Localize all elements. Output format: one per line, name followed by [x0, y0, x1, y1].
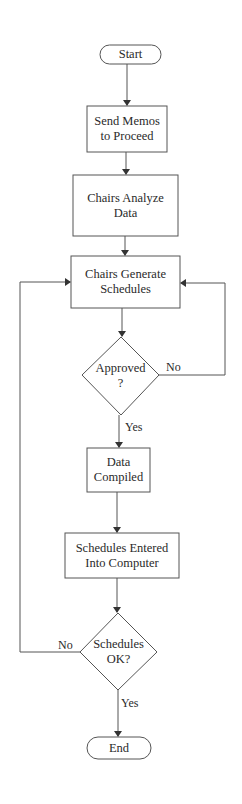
- node-schedules-ok-line-1: Schedules: [93, 637, 144, 652]
- node-start: Start: [100, 45, 161, 64]
- edge-label-ok-no: No: [58, 638, 73, 652]
- node-start-label: Start: [119, 47, 143, 62]
- node-schedules-entered-line-2: Into Computer: [85, 556, 158, 571]
- node-chairs-analyze-line-2: Data: [114, 206, 138, 221]
- edge-schedules-ok-no-loop: [20, 282, 80, 652]
- node-send-memos: Send Memos to Proceed: [87, 106, 167, 152]
- node-send-memos-line-2: to Proceed: [100, 129, 153, 144]
- node-chairs-analyze-line-1: Chairs Analyze: [87, 191, 164, 206]
- node-approved: Approved ?: [82, 337, 159, 415]
- node-end-label: End: [109, 741, 129, 756]
- node-schedules-entered: Schedules Entered Into Computer: [65, 533, 179, 578]
- edge-label-approved-no: No: [166, 360, 181, 374]
- node-chairs-generate: Chairs Generate Schedules: [71, 256, 180, 308]
- node-chairs-generate-line-1: Chairs Generate: [85, 267, 166, 282]
- node-end: End: [87, 737, 151, 759]
- node-chairs-analyze: Chairs Analyze Data: [73, 175, 178, 236]
- edge-label-approved-yes: Yes: [125, 420, 142, 434]
- node-data-compiled-line-2: Compiled: [94, 470, 143, 485]
- node-schedules-entered-line-1: Schedules Entered: [76, 541, 169, 556]
- node-chairs-generate-line-2: Schedules: [100, 282, 151, 297]
- node-approved-line-2: ?: [118, 376, 124, 391]
- node-schedules-ok: Schedules OK?: [80, 613, 157, 690]
- node-data-compiled-line-1: Data: [107, 455, 131, 470]
- node-schedules-ok-line-2: OK?: [107, 652, 131, 667]
- edge-label-ok-yes: Yes: [121, 696, 138, 710]
- node-approved-line-1: Approved: [96, 361, 146, 376]
- node-send-memos-line-1: Send Memos: [94, 114, 160, 129]
- node-data-compiled: Data Compiled: [87, 448, 150, 492]
